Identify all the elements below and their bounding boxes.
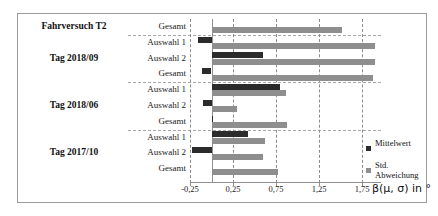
row-label: Auswahl 1 [128,37,186,48]
group-label: Tag 2018/09 [18,53,130,64]
x-tick-label: 0,25 [226,184,241,194]
row-label-column: GesamtAuswahl 1Auswahl 2GesamtAuswahl 1A… [128,14,186,182]
bar-std-abweichung [212,138,265,144]
bar-std-abweichung [212,43,375,49]
group-separator [128,35,381,36]
legend-swatch-icon [366,168,371,173]
chart-legend: MittelwertStd. Abweichung [366,138,434,184]
bar-mittelwert [202,68,211,74]
row-label: Auswahl 2 [128,100,186,111]
row-label: Gesamt [128,116,186,127]
bar-std-abweichung [212,59,375,65]
bar-std-abweichung [212,169,278,175]
plot-area [190,19,375,183]
chart-figure: Fahrversuch T2Tag 2018/09Tag 2018/06Tag … [0,0,438,216]
bar-mittelwert [212,131,248,137]
legend-label: Std. Abweichung [375,160,427,180]
bar-mittelwert [212,52,264,58]
row-label: Gesamt [128,21,186,32]
bar-mittelwert [198,37,212,43]
gridline-vertical [190,19,191,183]
bar-mittelwert [212,84,281,90]
x-tick-label: 1,75 [355,184,370,194]
x-tick-label: 0,75 [269,184,284,194]
row-label: Auswahl 1 [128,84,186,95]
bar-mittelwert [212,116,214,122]
group-label: Fahrversuch T2 [18,21,130,32]
plot-inner [190,19,375,183]
row-label: Gesamt [128,68,186,79]
bar-mittelwert [203,100,212,106]
row-label: Auswahl 1 [128,132,186,143]
group-label: Tag 2018/06 [18,100,130,111]
legend-swatch-icon [366,146,371,151]
group-label: Tag 2017/10 [18,147,130,158]
legend-item: Mittelwert [366,138,434,156]
bar-std-abweichung [212,106,238,112]
bar-std-abweichung [212,90,286,96]
row-label: Auswahl 2 [128,53,186,64]
bar-std-abweichung [212,27,343,33]
group-separator [128,130,381,131]
bar-std-abweichung [212,122,288,128]
x-tick-label: 1,25 [312,184,327,194]
group-separator [128,82,381,83]
x-axis-line [190,182,381,183]
legend-item: Std. Abweichung [366,160,434,180]
x-axis-tick-labels: -0,250,250,751,251,75 [190,184,390,198]
row-label: Auswahl 2 [128,147,186,158]
bar-std-abweichung [212,75,374,81]
bar-std-abweichung [212,154,264,160]
bar-mittelwert [192,147,212,153]
x-tick-label: -0,25 [181,184,199,194]
group-label-column: Fahrversuch T2Tag 2018/09Tag 2018/06Tag … [18,14,130,182]
row-label: Gesamt [128,163,186,174]
legend-label: Mittelwert [375,138,411,148]
